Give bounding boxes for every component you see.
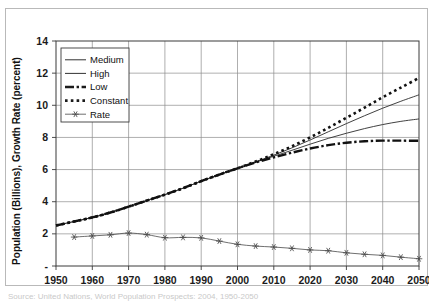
y-tick-label: 4 (42, 195, 48, 207)
x-tick-label: 1950 (44, 274, 68, 286)
figure-caption-text: Source: United Nations, World Population… (8, 291, 425, 302)
x-tick-label: 2030 (335, 274, 359, 286)
rate-data-marker (252, 243, 259, 249)
x-tick-label: 1990 (190, 274, 214, 286)
figure-caption: Source: United Nations, World Population… (8, 291, 425, 303)
rate-data-marker (325, 248, 332, 254)
x-tick-label: 1960 (81, 274, 105, 286)
rate-data-marker (71, 234, 78, 240)
y-tick-label: 10 (36, 99, 48, 111)
y-axis-tick-labels: 1412108642- (36, 35, 48, 272)
series-line (74, 233, 419, 259)
legend-item-label: Medium (90, 54, 124, 65)
x-tick-label: 2000 (226, 274, 250, 286)
x-tick-label: 1970 (117, 274, 141, 286)
y-tick-label: 14 (36, 35, 48, 47)
legend-item-label: High (90, 68, 110, 79)
y-tick-label: - (45, 260, 49, 272)
figure-page: Population (Billions), Growth Rate (perc… (0, 0, 433, 303)
chart-legend: MediumHighLowConstantRate (61, 48, 129, 122)
y-axis-title: Population (Billions), Growth Rate (perc… (11, 57, 22, 265)
x-tick-label: 2050 (407, 274, 429, 286)
y-tick-label: 12 (36, 67, 48, 79)
rate-data-marker (107, 232, 114, 238)
legend-item-label: Rate (90, 109, 110, 120)
x-tick-label: 2010 (262, 274, 286, 286)
series-rate (71, 230, 422, 261)
x-axis-tick-labels: 1950196019701980199020002010202020302040… (44, 274, 429, 286)
y-tick-label: 8 (42, 131, 48, 143)
legend-item-label: Constant (90, 95, 128, 106)
legend-item-label: Low (90, 81, 108, 92)
population-projection-chart: Population (Billions), Growth Rate (perc… (6, 9, 429, 287)
rate-data-marker (216, 238, 223, 244)
x-tick-label: 1980 (153, 274, 177, 286)
rate-data-marker (361, 251, 368, 257)
y-tick-label: 6 (42, 163, 48, 175)
y-tick-label: 2 (42, 227, 48, 239)
figure-frame: Population (Billions), Growth Rate (perc… (5, 8, 428, 286)
x-tick-label: 2020 (298, 274, 322, 286)
x-tick-label: 2040 (371, 274, 395, 286)
rate-data-marker (180, 235, 187, 241)
rate-data-marker (398, 254, 405, 260)
rate-data-marker (143, 232, 150, 238)
rate-data-marker (289, 245, 296, 251)
